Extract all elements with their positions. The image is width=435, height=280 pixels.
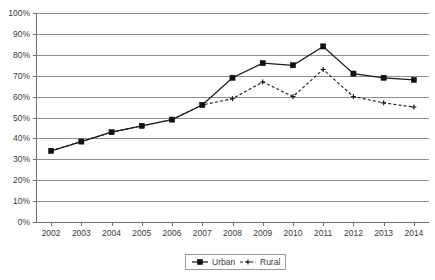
y-axis-tick-label: 10%: [13, 196, 30, 206]
x-axis-tick-label: 2012: [344, 228, 363, 238]
data-point-rural: [411, 105, 416, 110]
x-axis-tick-label: 2008: [223, 228, 242, 238]
x-axis-labels: 2002200320042005200620072008200920102011…: [42, 222, 424, 238]
data-point-urban: [381, 75, 386, 80]
data-point-urban: [321, 44, 326, 49]
y-axis-tick-label: 90%: [13, 29, 30, 39]
data-point-rural: [381, 100, 386, 105]
y-axis-tick-label: 30%: [13, 154, 30, 164]
y-axis-tick-label: 20%: [13, 175, 30, 185]
x-axis-tick-label: 2005: [132, 228, 151, 238]
x-axis-tick-label: 2007: [193, 228, 212, 238]
series-layer: [49, 44, 417, 154]
x-axis-tick-label: 2014: [404, 228, 423, 238]
y-axis-tick-label: 70%: [13, 71, 30, 81]
y-axis-tick-label: 100%: [8, 8, 30, 18]
legend-marker-urban: [197, 259, 202, 264]
x-axis-tick-label: 2013: [374, 228, 393, 238]
data-point-rural: [260, 79, 265, 84]
legend-label-rural: Rural: [260, 257, 280, 267]
y-axis-tick-label: 40%: [13, 133, 30, 143]
data-point-rural: [351, 94, 356, 99]
legend-label-urban: Urban: [212, 257, 235, 267]
data-point-urban: [411, 77, 416, 82]
data-point-urban: [290, 63, 295, 68]
x-axis-tick-label: 2010: [284, 228, 303, 238]
x-axis-tick-label: 2006: [163, 228, 182, 238]
x-axis-tick-label: 2011: [314, 228, 333, 238]
x-axis-tick-label: 2002: [42, 228, 61, 238]
chart-container: 0%10%20%30%40%50%60%70%80%90%100%2002200…: [0, 0, 435, 280]
data-point-urban: [351, 71, 356, 76]
gridlines: [36, 14, 429, 223]
chart-legend: UrbanRural: [186, 255, 286, 270]
data-point-rural: [321, 67, 326, 72]
y-axis-tick-label: 60%: [13, 92, 30, 102]
data-point-urban: [230, 75, 235, 80]
x-axis-tick-label: 2004: [102, 228, 121, 238]
y-axis-tick-label: 0%: [18, 217, 31, 227]
y-axis-tick-label: 80%: [13, 50, 30, 60]
y-axis-tick-label: 50%: [13, 113, 30, 123]
line-chart: 0%10%20%30%40%50%60%70%80%90%100%2002200…: [0, 0, 435, 280]
x-axis-tick-label: 2009: [253, 228, 272, 238]
data-point-urban: [260, 61, 265, 66]
y-axis-labels: 0%10%20%30%40%50%60%70%80%90%100%: [8, 8, 30, 227]
data-point-rural: [230, 96, 235, 101]
x-axis-tick-label: 2003: [72, 228, 91, 238]
